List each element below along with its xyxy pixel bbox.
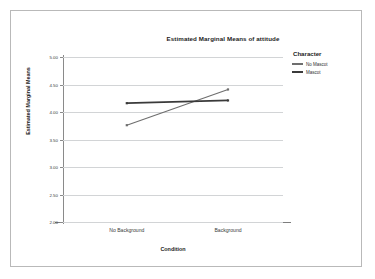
- legend-label: No Mascot: [306, 62, 328, 67]
- legend-entries: No MascotMascot: [292, 61, 370, 76]
- y-tick-label: 4.00: [49, 110, 58, 115]
- gridline: [63, 222, 283, 223]
- y-tick-label: 4.50: [49, 82, 58, 87]
- figure-canvas: Estimated Marginal Means of attitude Est…: [0, 0, 375, 279]
- chart-title: Estimated Marginal Means of attitude: [128, 35, 318, 42]
- y-tick-label: 2.50: [49, 192, 58, 197]
- data-point-marker: [126, 124, 128, 126]
- series-mascot: [126, 99, 229, 104]
- y-tick-label: 2.00: [49, 220, 58, 225]
- legend-title: Character: [293, 50, 370, 57]
- x-axis-title: Condition: [63, 246, 283, 252]
- x-tick-label: Background: [214, 227, 241, 233]
- data-point-marker: [126, 102, 128, 104]
- x-tick-label: No Background: [109, 227, 144, 233]
- series-line: [127, 89, 228, 125]
- y-tick-label: 3.50: [49, 137, 58, 142]
- legend-line-swatch: [292, 63, 303, 64]
- plot-area: 5.004.504.003.503.002.502.00: [63, 57, 283, 222]
- data-point-marker: [227, 99, 229, 101]
- series-line: [127, 100, 228, 103]
- legend-item-no-mascot[interactable]: No Mascot: [292, 61, 370, 68]
- data-point-marker: [227, 88, 229, 90]
- legend: Character No MascotMascot: [292, 50, 370, 77]
- y-axis-title: Estimated Marginal Means: [25, 41, 31, 161]
- series-layer: [63, 57, 283, 222]
- series-no-mascot: [126, 88, 229, 126]
- y-tick-label: 3.00: [49, 165, 58, 170]
- legend-item-mascot[interactable]: Mascot: [292, 69, 370, 76]
- legend-line-swatch: [292, 71, 303, 73]
- y-tick-mark: [60, 222, 63, 223]
- legend-label: Mascot: [306, 70, 321, 75]
- y-tick-label: 5.00: [49, 55, 58, 60]
